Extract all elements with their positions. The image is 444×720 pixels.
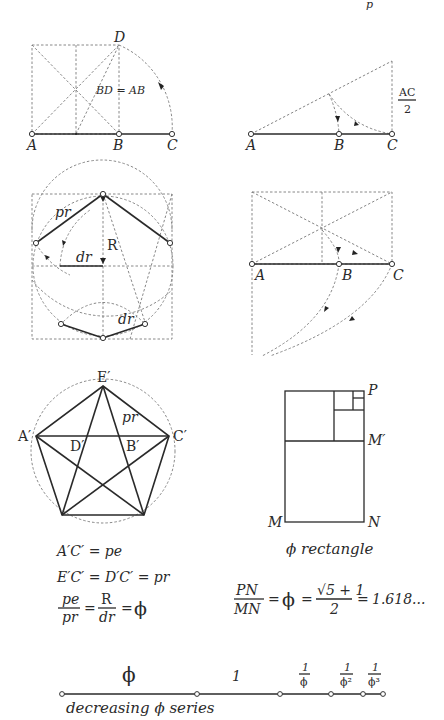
arrow-icon bbox=[349, 316, 355, 321]
point-b bbox=[336, 131, 341, 136]
square-construction-panel: A B C D BD = AB bbox=[25, 29, 178, 153]
point-c bbox=[389, 131, 394, 136]
segment-numerator: 1 bbox=[372, 661, 379, 674]
fraction-numerator-pn: PN bbox=[235, 582, 258, 598]
series-point bbox=[381, 692, 386, 697]
series-point bbox=[361, 692, 366, 697]
label-n: N bbox=[367, 514, 381, 530]
construction-line bbox=[103, 194, 146, 325]
arrow-icon bbox=[158, 82, 164, 90]
phi-series-caption: decreasing ϕ series bbox=[66, 699, 215, 717]
equals-sign: = bbox=[84, 600, 96, 616]
vertex bbox=[33, 240, 38, 245]
pentagon-side bbox=[61, 324, 103, 338]
series-point bbox=[60, 692, 65, 697]
arrow-icon bbox=[62, 240, 66, 246]
label-pr: pr bbox=[55, 204, 72, 220]
series-point bbox=[329, 692, 334, 697]
phi-series-panel: ϕ 1 1 ϕ 1 ϕ² 1 ϕ³ decreasing ϕ series bbox=[60, 661, 386, 717]
label-m: M bbox=[267, 514, 283, 530]
vertex bbox=[100, 335, 105, 340]
pentagon-construction-panel: pr R dr dr bbox=[32, 160, 173, 341]
header-mark: p bbox=[366, 0, 373, 11]
label-c: C bbox=[393, 267, 404, 283]
fraction-denominator-pr: pr bbox=[62, 609, 79, 625]
segment-denominator: ϕ bbox=[300, 676, 308, 689]
equals-sign: = bbox=[121, 600, 133, 616]
fraction-denominator-mn: MN bbox=[233, 601, 261, 617]
arc-to-c bbox=[329, 94, 392, 134]
arc bbox=[36, 244, 70, 275]
fraction-numerator-r: R bbox=[101, 591, 112, 607]
label-c: C bbox=[387, 137, 398, 153]
label-dr-top: dr bbox=[76, 249, 93, 265]
arc-to-b bbox=[329, 94, 339, 134]
hypotenuse bbox=[251, 61, 392, 134]
phi-value: 1.618... bbox=[372, 591, 425, 607]
arc-down bbox=[270, 264, 392, 356]
phi-formula: PN MN = ϕ = √5 + 1 2 = 1.618... bbox=[233, 582, 425, 617]
arrow-icon bbox=[100, 258, 106, 264]
label-b-prime: B′ bbox=[126, 438, 139, 454]
vertex bbox=[167, 240, 172, 245]
label-a: A bbox=[253, 267, 265, 283]
pentagram-formulas: A′C′ = pe E′C′ = D′C′ = pr pe pr = R dr … bbox=[55, 543, 171, 625]
label-b: B bbox=[341, 267, 352, 283]
fraction-denominator: 2 bbox=[404, 103, 411, 116]
label-e-prime: E′ bbox=[97, 369, 110, 385]
point-a bbox=[29, 131, 34, 136]
label-p: P bbox=[367, 382, 378, 398]
golden-ratio-figure: p A B C D BD = AB A B C AC bbox=[0, 0, 444, 720]
label-d: D bbox=[113, 29, 125, 45]
fraction-denominator-dr: dr bbox=[99, 609, 116, 625]
series-point bbox=[278, 692, 283, 697]
segment-denominator: ϕ³ bbox=[368, 676, 380, 689]
point-b bbox=[336, 261, 341, 266]
equals-sign: = bbox=[268, 591, 280, 607]
point-c bbox=[389, 261, 394, 266]
label-r: R bbox=[107, 237, 118, 253]
equation-bd-ab: BD = AB bbox=[95, 84, 145, 97]
label-dr-bottom: dr bbox=[118, 311, 135, 327]
label-d-prime: D′ bbox=[70, 438, 84, 454]
segment-numerator: 1 bbox=[344, 661, 351, 674]
label-a: A bbox=[25, 137, 37, 153]
fraction-numerator: AC bbox=[398, 86, 415, 99]
equals-sign: = bbox=[301, 591, 313, 607]
phi-rectangle-panel: P M′ M N ϕ rectangle bbox=[267, 382, 386, 558]
equals-sign: = bbox=[357, 591, 369, 607]
label-b: B bbox=[112, 137, 123, 153]
label-a: A bbox=[244, 137, 256, 153]
label-b: B bbox=[333, 137, 344, 153]
vertex bbox=[142, 321, 147, 326]
circumscribed-circle bbox=[31, 379, 175, 523]
segment-label-one: 1 bbox=[232, 668, 241, 684]
label-c-prime: C′ bbox=[173, 428, 187, 444]
triangle-construction-panel: A B C AC 2 bbox=[244, 61, 416, 153]
point-a bbox=[249, 261, 254, 266]
vertex bbox=[58, 321, 63, 326]
label-m-prime: M′ bbox=[367, 432, 386, 448]
midpoint-dot bbox=[75, 133, 77, 135]
phi-rectangle-caption: ϕ rectangle bbox=[286, 540, 373, 558]
point-b bbox=[116, 131, 121, 136]
rectangle-extension-panel: A B C bbox=[249, 192, 404, 356]
formula-line-2: E′C′ = D′C′ = pr bbox=[56, 569, 171, 585]
pentagon-side bbox=[103, 194, 170, 243]
pentagram-panel: E′ A′ C′ D′ B′ pr bbox=[17, 369, 187, 523]
label-c: C bbox=[167, 137, 178, 153]
arc-down bbox=[262, 264, 339, 356]
phi-symbol: ϕ bbox=[282, 588, 295, 610]
construction-line bbox=[130, 194, 172, 339]
label-pr: pr bbox=[122, 409, 139, 425]
fraction-denominator-2: 2 bbox=[329, 601, 339, 617]
vertex bbox=[100, 191, 105, 196]
fraction-numerator-pe: pe bbox=[62, 591, 79, 607]
arrow-icon bbox=[324, 306, 329, 312]
segment-numerator: 1 bbox=[302, 661, 309, 674]
point-a bbox=[248, 131, 253, 136]
formula-line-1: A′C′ = pe bbox=[55, 543, 122, 559]
series-point bbox=[195, 692, 200, 697]
arc bbox=[32, 280, 172, 316]
segment-label-phi: ϕ bbox=[122, 663, 136, 687]
